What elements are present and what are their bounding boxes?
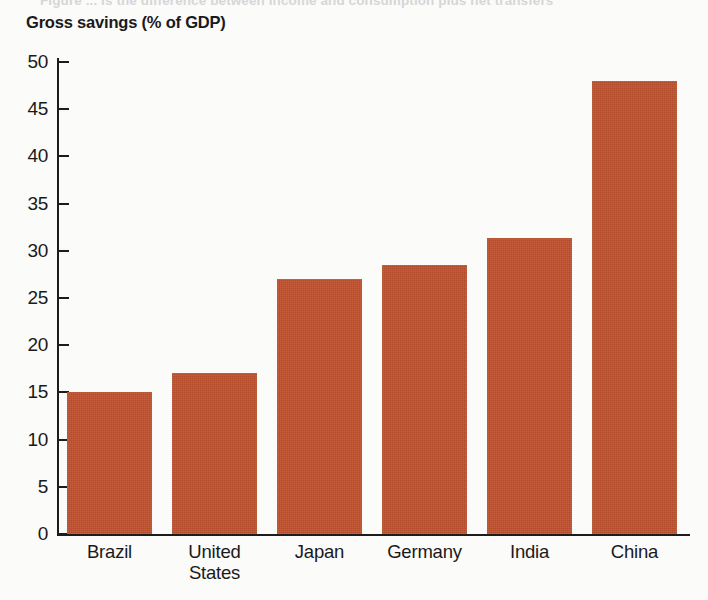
x-tick-label: India: [475, 541, 584, 562]
bar-brazil: [67, 392, 152, 534]
chart-figure: Figure ... is the difference between inc…: [0, 0, 708, 600]
x-tick-label-line: States: [160, 562, 269, 583]
x-tick-label: Brazil: [55, 541, 164, 562]
x-tick-label-line: Brazil: [55, 541, 164, 562]
bar-japan: [277, 279, 362, 534]
bar-india: [487, 238, 572, 534]
bar-series: [0, 0, 708, 535]
x-tick-label-line: United: [160, 541, 269, 562]
x-tick-label-line: China: [580, 541, 689, 562]
bar-united-states: [172, 373, 257, 534]
bar-germany: [382, 265, 467, 534]
x-tick-label: Germany: [370, 541, 479, 562]
x-tick-label: China: [580, 541, 689, 562]
bar-china: [592, 81, 677, 534]
x-tick-label-line: India: [475, 541, 584, 562]
plot-area: 05101520253035404550 BrazilUnitedStatesJ…: [0, 0, 708, 600]
x-tick-label: Japan: [265, 541, 374, 562]
x-tick-label: UnitedStates: [160, 541, 269, 583]
x-tick-label-line: Japan: [265, 541, 374, 562]
x-tick-label-line: Germany: [370, 541, 479, 562]
